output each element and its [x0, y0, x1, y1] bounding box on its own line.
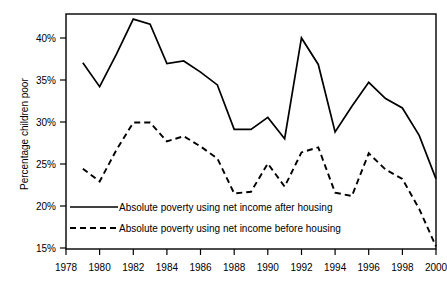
x-tick-label-1994: 1994 [324, 262, 347, 273]
y-tick-label-20: 20% [36, 201, 56, 212]
x-tick-label-1998: 1998 [391, 262, 414, 273]
legend-label-before-housing: Absolute poverty using net income before… [119, 223, 341, 234]
x-tick-label-1990: 1990 [257, 262, 280, 273]
y-axis-title: Percentage children poor [19, 78, 30, 190]
chart-background [0, 0, 447, 284]
x-tick-label-1988: 1988 [223, 262, 246, 273]
x-tick-label-1996: 1996 [358, 262, 381, 273]
x-tick-label-1978: 1978 [55, 262, 78, 273]
chart-page: Percentage children poor 40% 35% 30% 25%… [0, 0, 447, 284]
y-tick-label-30: 30% [36, 117, 56, 128]
y-tick-label-35: 35% [36, 75, 56, 86]
x-tick-label-1980: 1980 [88, 262, 111, 273]
legend-label-after-housing: Absolute poverty using net income after … [119, 202, 332, 213]
y-tick-label-15: 15% [36, 243, 56, 254]
y-tick-label-40: 40% [36, 33, 56, 44]
y-tick-label-25: 25% [36, 159, 56, 170]
x-tick-label-1992: 1992 [290, 262, 313, 273]
line-chart: Percentage children poor 40% 35% 30% 25%… [0, 0, 447, 284]
x-tick-label-1982: 1982 [122, 262, 145, 273]
x-tick-label-1984: 1984 [156, 262, 179, 273]
x-tick-label-2000: 2000 [425, 262, 447, 273]
x-tick-label-1986: 1986 [189, 262, 212, 273]
